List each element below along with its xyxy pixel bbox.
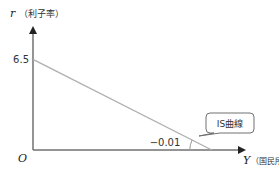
callout-label: IS曲線 [217,118,243,129]
origin-label: O [18,152,27,165]
is-curve-diagram: r （利子率） Y （国民所得） O 6.5 −0.01 IS曲線 [0,0,279,175]
is-curve-line [33,59,212,150]
slope-angle-arc [190,140,192,150]
y-axis-variable: r [10,7,16,20]
slope-label: −0.01 [150,137,181,148]
y-axis-label: （利子率） [19,8,64,19]
x-axis-label: （国民所得） [251,156,279,166]
y-intercept-label: 6.5 [13,54,29,65]
is-curve-callout: IS曲線 [199,113,254,136]
